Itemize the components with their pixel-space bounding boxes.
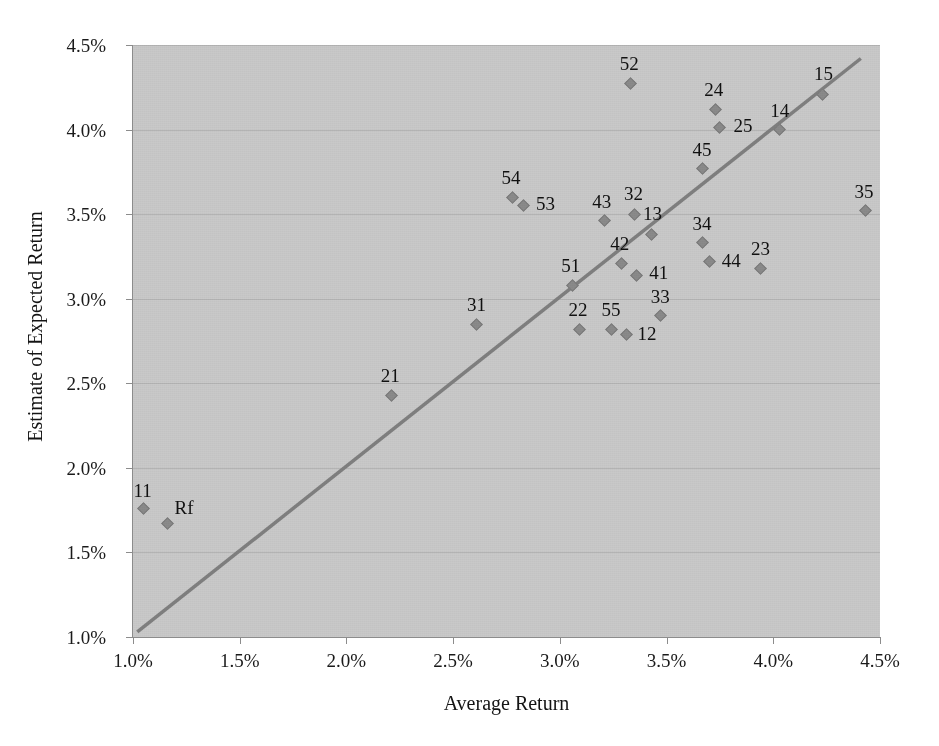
data-point-marker[interactable] (598, 215, 611, 228)
data-point-marker[interactable] (754, 262, 767, 275)
data-point-marker[interactable] (573, 323, 586, 336)
y-tick-label: 1.5% (0, 543, 106, 562)
x-tick-mark (240, 638, 241, 644)
x-axis-line (132, 637, 881, 638)
data-point-label: Rf (162, 498, 206, 517)
y-tick-mark (126, 214, 132, 215)
data-point-marker[interactable] (697, 162, 710, 175)
y-tick-label: 1.0% (0, 628, 106, 647)
x-tick-label: 3.0% (505, 651, 615, 670)
x-tick-label: 4.0% (718, 651, 828, 670)
x-tick-label: 2.5% (398, 651, 508, 670)
y-tick-label: 4.0% (0, 121, 106, 140)
x-tick-mark (133, 638, 134, 644)
x-axis-title: Average Return (133, 692, 880, 715)
data-point-marker[interactable] (385, 389, 398, 402)
data-point-marker[interactable] (605, 323, 618, 336)
gridline (133, 299, 880, 300)
data-point-label: 34 (680, 214, 724, 233)
data-point-marker[interactable] (654, 309, 667, 322)
data-point-label: 15 (801, 64, 845, 83)
scatter-chart: 11Rf213154535122554342123252413313453444… (0, 0, 939, 746)
y-tick-label: 4.5% (0, 36, 106, 55)
data-point-label: 54 (489, 168, 533, 187)
x-tick-mark (773, 638, 774, 644)
gridline (133, 130, 880, 131)
panel-texture (133, 45, 880, 637)
data-point-label: 53 (524, 194, 568, 213)
x-tick-mark (667, 638, 668, 644)
data-point-marker[interactable] (773, 123, 786, 136)
data-point-label: 32 (612, 184, 656, 203)
gridline (133, 468, 880, 469)
gridline (133, 45, 880, 46)
plot-area: 11Rf213154535122554342123252413313453444… (133, 45, 880, 637)
data-point-label: 23 (739, 239, 783, 258)
y-tick-mark (126, 468, 132, 469)
x-tick-mark (453, 638, 454, 644)
y-axis-ticks: 1.0%1.5%2.0%2.5%3.0%3.5%4.0%4.5% (0, 0, 126, 746)
data-point-label: 41 (637, 263, 681, 282)
trendline (133, 45, 880, 637)
y-axis-line (132, 45, 133, 638)
data-point-label: 11 (121, 481, 165, 500)
data-point-marker[interactable] (624, 78, 637, 91)
y-tick-label: 2.5% (0, 374, 106, 393)
data-point-label: 13 (631, 204, 675, 223)
x-tick-mark (346, 638, 347, 644)
data-point-label: 14 (758, 101, 802, 120)
data-point-label: 35 (842, 182, 886, 201)
y-tick-label: 3.5% (0, 205, 106, 224)
y-tick-mark (126, 45, 132, 46)
x-tick-mark (880, 638, 881, 644)
data-point-label: 12 (625, 324, 669, 343)
data-point-marker[interactable] (615, 257, 628, 270)
data-point-marker[interactable] (470, 318, 483, 331)
gridline (133, 383, 880, 384)
gridline (133, 214, 880, 215)
data-point-label: 31 (455, 295, 499, 314)
data-point-marker[interactable] (507, 191, 520, 204)
x-tick-label: 3.5% (612, 651, 722, 670)
data-point-marker[interactable] (859, 204, 872, 217)
data-point-label: 45 (680, 140, 724, 159)
y-tick-label: 3.0% (0, 290, 106, 309)
data-point-label: 55 (589, 300, 633, 319)
y-tick-mark (126, 130, 132, 131)
data-point-label: 33 (638, 287, 682, 306)
data-point-label: 51 (549, 256, 593, 275)
data-point-marker[interactable] (697, 237, 710, 250)
data-point-marker[interactable] (709, 103, 722, 116)
y-tick-mark (126, 552, 132, 553)
data-point-label: 42 (598, 234, 642, 253)
y-tick-mark (126, 383, 132, 384)
data-point-marker[interactable] (137, 502, 150, 515)
data-point-marker[interactable] (161, 517, 174, 530)
data-point-marker[interactable] (645, 228, 658, 241)
data-point-marker[interactable] (816, 88, 829, 101)
x-tick-label: 2.0% (291, 651, 401, 670)
x-tick-mark (560, 638, 561, 644)
x-tick-label: 1.0% (78, 651, 188, 670)
x-tick-label: 4.5% (825, 651, 935, 670)
data-point-marker[interactable] (566, 279, 579, 292)
gridline (133, 552, 880, 553)
x-tick-label: 1.5% (185, 651, 295, 670)
y-axis-title: Estimate of Expected Return (24, 87, 47, 567)
data-point-label: 52 (607, 54, 651, 73)
y-tick-mark (126, 299, 132, 300)
y-tick-label: 2.0% (0, 459, 106, 478)
data-point-label: 24 (692, 80, 736, 99)
data-point-label: 21 (368, 366, 412, 385)
y-tick-mark (126, 637, 132, 638)
